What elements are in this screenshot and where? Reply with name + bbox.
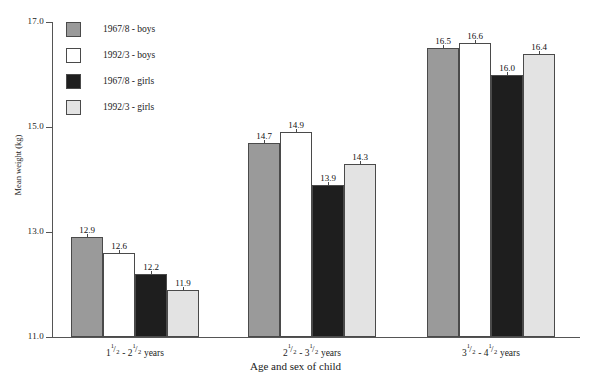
y-axis-tick-label: 13.0 — [2, 227, 44, 236]
bar — [248, 143, 280, 337]
y-axis-title: Mean weight (kg) — [13, 105, 23, 225]
bar-group: 14.714.913.914.3 — [248, 22, 376, 337]
bar — [459, 43, 491, 337]
x-axis-title: Age and sex of child — [0, 360, 591, 373]
bar-label-callout — [328, 182, 329, 185]
bar-label-callout — [87, 234, 88, 237]
bar-label-callout — [360, 161, 361, 164]
x-axis-category-label: 21/2 - 31/2 years — [242, 345, 382, 359]
bar-label-callout — [119, 250, 120, 253]
bar — [427, 48, 459, 337]
x-axis-category-label: 31/2 - 41/2 years — [421, 345, 561, 359]
y-axis-tick-label: 15.0 — [2, 122, 44, 131]
bar-group: 16.516.616.016.4 — [427, 22, 555, 337]
bar-label-callout — [151, 271, 152, 274]
bar-label-callout — [264, 140, 265, 143]
bar — [280, 132, 312, 337]
bar-label-callout — [507, 72, 508, 75]
bar-label-callout — [183, 287, 184, 290]
bar — [312, 185, 344, 337]
bar-label-callout — [475, 40, 476, 43]
bar — [344, 164, 376, 337]
bar-chart: 11.013.015.017.0 Mean weight (kg) Age an… — [0, 0, 591, 381]
bar-label-callout — [443, 45, 444, 48]
x-axis-category-label: 11/2 - 21/2 years — [65, 345, 205, 359]
bar-group: 12.912.612.211.9 — [71, 22, 199, 337]
y-axis-tick-label: 11.0 — [2, 332, 44, 341]
y-axis-tick-label: 17.0 — [2, 17, 44, 26]
bar — [491, 75, 523, 338]
bar-label-callout — [539, 51, 540, 54]
bar — [71, 237, 103, 337]
plot-area: 12.912.612.211.914.714.913.914.316.516.6… — [52, 22, 580, 337]
bar — [523, 54, 555, 338]
x-axis-line — [52, 337, 580, 338]
bar-label-callout — [296, 129, 297, 132]
bar — [167, 290, 199, 337]
